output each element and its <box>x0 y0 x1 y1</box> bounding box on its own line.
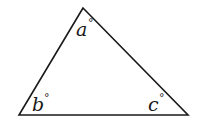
angle-label-a: a ° <box>76 16 94 40</box>
triangle-diagram: a ° b ° c ° <box>0 0 199 124</box>
angle-letter-a: a <box>76 18 87 40</box>
angle-letter-c: c <box>148 93 159 115</box>
angle-letter-b: b <box>32 93 44 115</box>
degree-symbol-a: ° <box>88 16 94 29</box>
degree-symbol-b: ° <box>44 91 50 104</box>
degree-symbol-c: ° <box>159 91 165 104</box>
triangle-figure: a ° b ° c ° <box>0 0 199 124</box>
angle-label-b: b ° <box>32 91 50 115</box>
angle-label-c: c ° <box>148 91 165 115</box>
